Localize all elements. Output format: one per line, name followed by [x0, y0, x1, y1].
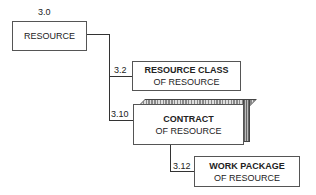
node-number-3-0: 3.0	[38, 7, 51, 17]
connector-3-12	[170, 171, 194, 172]
node-3d-side	[243, 99, 250, 142]
node-contract: CONTRACT OF RESOURCE	[133, 104, 244, 145]
node-sublabel: OF RESOURCE	[214, 172, 280, 184]
node-resource: RESOURCE	[12, 21, 87, 51]
node-resource-class: RESOURCE CLASS OF RESOURCE	[132, 61, 241, 91]
connector-root-vertical	[109, 34, 110, 121]
connector-root-horizontal	[86, 34, 110, 35]
node-label: WORK PACKAGE	[209, 160, 284, 172]
node-work-package: WORK PACKAGE OF RESOURCE	[194, 156, 300, 187]
node-number-3-10: 3.10	[111, 109, 129, 119]
connector-3-10-vertical	[170, 145, 171, 172]
connector-3-2	[109, 76, 133, 77]
node-label: CONTRACT	[163, 113, 214, 125]
node-number-3-12: 3.12	[173, 161, 191, 171]
connector-3-10	[109, 120, 134, 121]
node-label: RESOURCE	[24, 30, 75, 42]
node-sublabel: OF RESOURCE	[153, 76, 219, 88]
node-label: RESOURCE CLASS	[144, 64, 228, 76]
node-sublabel: OF RESOURCE	[155, 125, 221, 137]
node-number-3-2: 3.2	[114, 65, 127, 75]
